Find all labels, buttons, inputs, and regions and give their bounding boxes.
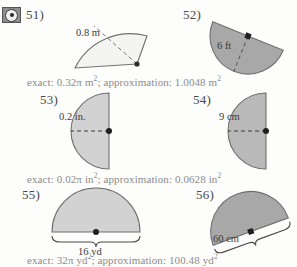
answer-51-exp2: 2: [217, 74, 221, 83]
center-dot-53: [106, 128, 112, 134]
answer-51-unit: m: [85, 76, 94, 88]
answer-53-exp2: 2: [217, 171, 221, 180]
semicircle-area-53: [71, 93, 109, 169]
figure-51-sector: [42, 12, 150, 74]
measure-label-56: 60 cm: [213, 233, 239, 244]
media-placeholder-icon[interactable]: [2, 7, 21, 23]
figure-54-semicircle: [212, 91, 276, 171]
media-disc-icon: [5, 9, 18, 22]
problem-number-52: 52): [183, 7, 201, 23]
answer-55-middle: ; approximation: 100.48 yd: [92, 254, 214, 266]
vertex-dot-51: [134, 61, 139, 66]
answer-53-prefix: exact: 0.02: [27, 173, 76, 185]
measure-label-52: 6 ft: [217, 40, 231, 51]
measure-label-54: 9 cm: [219, 111, 240, 122]
answer-55-prefix: exact: 32: [27, 254, 68, 266]
problem-number-54: 54): [193, 92, 211, 108]
center-dot-55: [93, 229, 99, 235]
answer-51: exact: 0.32π m2; approximation: 1.0048 m…: [27, 74, 221, 88]
answer-51-prefix: exact: 0.32: [27, 76, 76, 88]
measure-label-53: 0.2 in.: [59, 111, 86, 122]
semicircle-area-54: [228, 93, 266, 169]
figure-53-semicircle: [55, 91, 119, 171]
problem-number-55: 55): [22, 187, 40, 203]
answer-55-unit: yd: [76, 254, 87, 266]
semicircle-area-55: [52, 188, 140, 232]
figure-55-semicircle: [46, 186, 152, 254]
answer-55-exp2: 2: [214, 252, 218, 261]
answer-53-middle: ; approximation: 0.0628 in: [98, 173, 218, 185]
answer-53: exact: 0.02π in2; approximation: 0.0628 …: [27, 171, 221, 185]
center-dot-54: [263, 128, 269, 134]
answer-55: exact: 32π yd2; approximation: 100.48 yd…: [27, 252, 218, 266]
answer-51-middle: ; approximation: 1.0048 m: [97, 76, 217, 88]
worksheet-page: 51) 0.8 m 52) 6 ft exact: 0.32π m2;: [0, 0, 297, 267]
figure-56-semicircle: [198, 188, 297, 260]
measure-label-51: 0.8 m: [76, 27, 100, 38]
answer-53-unit: in: [85, 173, 94, 185]
